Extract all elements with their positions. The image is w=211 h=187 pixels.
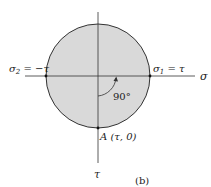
mohr-circle-diagram: σ2 = −τ σ1 = τ σ τ 90° A (τ, 0) (b): [0, 0, 211, 187]
point-sigma2: [45, 75, 48, 78]
tau-axis-label: τ: [94, 168, 101, 181]
point-sigma1: [149, 75, 152, 78]
sigma-axis-label: σ: [200, 70, 208, 83]
point-a: [97, 127, 100, 130]
point-a-label: A (τ, 0): [99, 131, 137, 142]
angle-label: 90°: [113, 91, 131, 102]
sigma1-label: σ1 = τ: [153, 63, 185, 76]
sigma2-label: σ2 = −τ: [9, 63, 49, 76]
panel-label: (b): [135, 175, 149, 186]
